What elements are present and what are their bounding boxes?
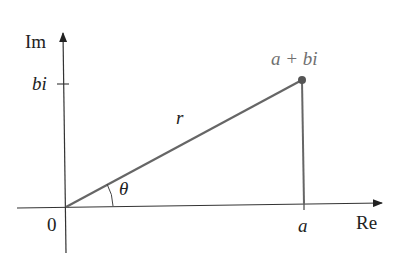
r-label: r: [176, 107, 184, 128]
re-axis-label: Re: [356, 212, 377, 233]
im-axis-label: Im: [25, 31, 46, 52]
projection-line: [302, 80, 304, 205]
origin-label: 0: [47, 214, 57, 235]
point-a-plus-bi: [298, 76, 306, 84]
bi-label: bi: [32, 73, 47, 94]
imaginary-axis: [63, 33, 66, 253]
complex-plane-diagram: Im Re 0 bi a a + bi r θ: [0, 0, 412, 270]
theta-label: θ: [119, 178, 128, 199]
angle-arc: [107, 184, 113, 206]
vector-r: [66, 80, 302, 207]
a-label: a: [298, 215, 308, 236]
point-label: a + bi: [271, 48, 318, 69]
